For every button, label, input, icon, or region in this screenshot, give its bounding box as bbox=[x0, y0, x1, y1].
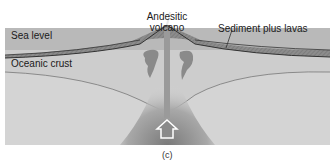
volcano-label-line1: Andesitic bbox=[137, 11, 197, 22]
sea-level-label: Sea level bbox=[11, 30, 52, 41]
sediment-label: Sediment plus lavas bbox=[218, 23, 308, 34]
magma-conduit bbox=[164, 28, 170, 118]
figure-caption: (c) bbox=[162, 150, 173, 160]
volcano-label: Andesitic volcano bbox=[137, 11, 197, 33]
volcanic-arc-diagram: Andesitic volcano Sea level Sediment plu… bbox=[0, 0, 334, 165]
oceanic-crust-label: Oceanic crust bbox=[11, 58, 72, 69]
volcano-label-line2: volcano bbox=[137, 22, 197, 33]
